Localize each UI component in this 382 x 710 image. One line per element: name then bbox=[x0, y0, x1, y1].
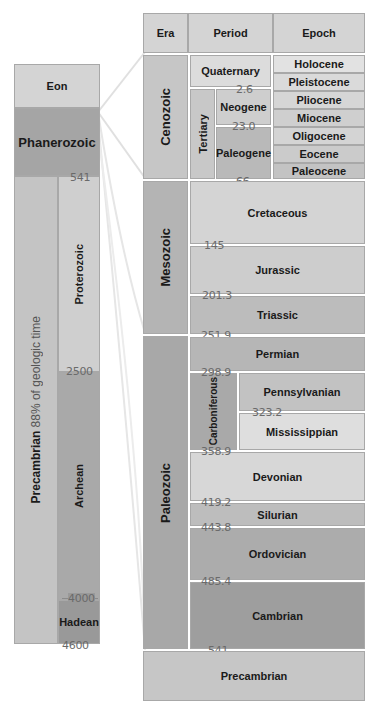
period-paleogene[interactable]: Paleogene bbox=[216, 127, 271, 179]
age-201-3: 201.3 bbox=[202, 290, 232, 301]
eon-phanerozoic[interactable]: Phanerozoic bbox=[14, 108, 100, 176]
jurassic-label: Jurassic bbox=[255, 264, 300, 276]
holocene-label: Holocene bbox=[294, 58, 344, 70]
paleozoic-label: Paleozoic bbox=[158, 463, 173, 523]
permian-label: Permian bbox=[256, 348, 299, 360]
age-358-9: 358.9 bbox=[201, 446, 231, 457]
age-323-2: 323.2 bbox=[252, 407, 282, 418]
era-cenozoic[interactable]: Cenozoic bbox=[143, 55, 188, 179]
period-quaternary[interactable]: Quaternary bbox=[190, 55, 271, 87]
quaternary-label: Quaternary bbox=[201, 65, 260, 77]
cambrian-label: Cambrian bbox=[252, 610, 303, 622]
detail-precambrian-label: Precambrian bbox=[221, 670, 288, 682]
mississippian-label: Mississippian bbox=[266, 426, 338, 438]
period-ordovician[interactable]: Ordovician bbox=[190, 528, 365, 580]
epoch-header: Epoch bbox=[273, 13, 365, 53]
age-23-0: 23.0 bbox=[232, 121, 255, 132]
ordovician-label: Ordovician bbox=[249, 548, 306, 560]
proterozoic-label: Proterozoic bbox=[73, 244, 85, 305]
carboniferous-label: Carboniferous bbox=[208, 377, 219, 445]
pleistocene-label: Pleistocene bbox=[288, 76, 349, 88]
eon-hadean[interactable]: Hadean bbox=[58, 600, 100, 644]
devonian-label: Devonian bbox=[253, 471, 303, 483]
age-4000: 4000 bbox=[68, 593, 95, 604]
eon-archean[interactable]: Archean bbox=[58, 372, 100, 600]
eon-header: Eon bbox=[14, 64, 100, 108]
miocene-label: Miocene bbox=[297, 112, 341, 124]
phanerozoic-label: Phanerozoic bbox=[18, 135, 95, 150]
period-cretaceous[interactable]: Cretaceous bbox=[190, 181, 365, 244]
age-485-4: 485.4 bbox=[201, 576, 231, 587]
age-443-8: 443.8 bbox=[201, 522, 231, 533]
silurian-label: Silurian bbox=[257, 509, 297, 521]
eon-proterozoic[interactable]: Proterozoic bbox=[58, 176, 100, 372]
oligocene-label: Oligocene bbox=[292, 130, 345, 142]
eon-precambrian[interactable]: Precambrian 88% of geologic time bbox=[14, 176, 58, 644]
neogene-label: Neogene bbox=[220, 101, 266, 113]
era-header-label: Era bbox=[157, 27, 175, 39]
period-header-label: Period bbox=[213, 27, 247, 39]
epoch-paleocene[interactable]: Paleocene bbox=[273, 163, 365, 179]
epoch-miocene[interactable]: Miocene bbox=[273, 109, 365, 127]
age-2500: 2500 bbox=[66, 366, 93, 377]
paleogene-label: Paleogene bbox=[216, 147, 271, 159]
precambrian-label: Precambrian 88% of geologic time bbox=[29, 316, 43, 503]
period-cambrian[interactable]: Cambrian bbox=[190, 582, 365, 649]
archean-label: Archean bbox=[73, 464, 85, 508]
epoch-holocene[interactable]: Holocene bbox=[273, 55, 365, 73]
period-tertiary[interactable]: Tertiary bbox=[190, 89, 215, 179]
epoch-header-label: Epoch bbox=[302, 27, 336, 39]
age-298-9: 298.9 bbox=[201, 367, 231, 378]
cenozoic-label: Cenozoic bbox=[158, 88, 173, 146]
epoch-pleistocene[interactable]: Pleistocene bbox=[273, 73, 365, 91]
pennsylvanian-label: Pennsylvanian bbox=[263, 386, 340, 398]
age-4600: 4600 bbox=[62, 640, 89, 651]
period-devonian[interactable]: Devonian bbox=[190, 452, 365, 501]
eon-header-label: Eon bbox=[47, 80, 68, 92]
detail-precambrian[interactable]: Precambrian bbox=[143, 651, 365, 701]
cretaceous-label: Cretaceous bbox=[248, 207, 308, 219]
epoch-pliocene[interactable]: Pliocene bbox=[273, 91, 365, 109]
paleocene-label: Paleocene bbox=[292, 165, 346, 177]
pliocene-label: Pliocene bbox=[296, 94, 341, 106]
period-jurassic[interactable]: Jurassic bbox=[190, 246, 365, 294]
period-header: Period bbox=[188, 13, 273, 53]
epoch-oligocene[interactable]: Oligocene bbox=[273, 127, 365, 145]
epoch-eocene[interactable]: Eocene bbox=[273, 145, 365, 163]
precambrian-note: 88% of geologic time bbox=[29, 316, 43, 427]
age-419-2: 419.2 bbox=[201, 497, 231, 508]
hadean-label: Hadean bbox=[59, 616, 99, 628]
triassic-label: Triassic bbox=[257, 309, 298, 321]
era-header: Era bbox=[143, 13, 188, 53]
precambrian-text: Precambrian bbox=[29, 431, 43, 504]
age-145: 145 bbox=[204, 240, 224, 251]
era-paleozoic[interactable]: Paleozoic bbox=[143, 336, 188, 649]
mesozoic-label: Mesozoic bbox=[158, 228, 173, 287]
tertiary-label: Tertiary bbox=[197, 114, 209, 154]
period-carboniferous[interactable]: Carboniferous bbox=[190, 373, 237, 450]
era-mesozoic[interactable]: Mesozoic bbox=[143, 181, 188, 334]
age-541-eon: 541 bbox=[70, 172, 90, 183]
eocene-label: Eocene bbox=[299, 148, 338, 160]
age-2-6: 2.6 bbox=[236, 84, 253, 95]
